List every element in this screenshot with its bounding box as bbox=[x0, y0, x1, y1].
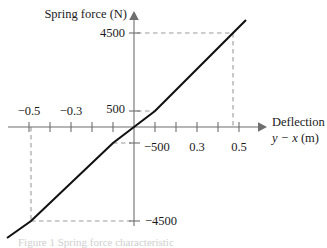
x-axis-title-unit: (m) bbox=[298, 131, 319, 145]
x-tick-label-05: 0.5 bbox=[231, 140, 247, 154]
axes bbox=[8, 11, 267, 226]
x-axis-title-variable: y − x bbox=[270, 131, 298, 145]
spring-force-curve bbox=[7, 20, 246, 238]
y-tick-label-500: 500 bbox=[106, 102, 125, 116]
x-tick-label-minus05: −0.5 bbox=[18, 104, 41, 118]
x-axis-title-line1: Deflection bbox=[272, 115, 326, 129]
y-tick-label-4500: 4500 bbox=[100, 26, 125, 40]
y-tick-label-minus4500: −4500 bbox=[145, 214, 177, 228]
x-tick-label-minus03: −0.3 bbox=[60, 104, 83, 118]
y-tick-label-minus500: −500 bbox=[144, 140, 170, 154]
x-tick-label-03: 0.3 bbox=[189, 140, 205, 154]
x-axis-arrowhead bbox=[258, 122, 267, 132]
x-axis-title-line2: y − x (m) bbox=[270, 131, 319, 145]
y-axis-title: Spring force (N) bbox=[44, 7, 127, 21]
y-axis-arrowhead bbox=[129, 11, 139, 20]
curve-polyline bbox=[7, 20, 246, 238]
caption-sliver: Figure 1 Spring force characteristic bbox=[18, 236, 174, 248]
